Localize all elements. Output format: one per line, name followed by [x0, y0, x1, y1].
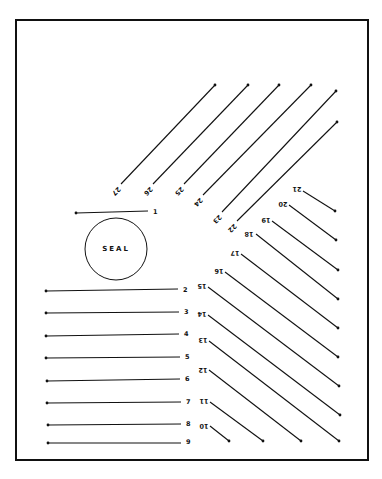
segment-line: [47, 402, 181, 403]
endpoint-dot: [45, 357, 48, 360]
endpoint-dot: [75, 212, 78, 215]
segment-line: [289, 205, 336, 240]
endpoint-dot: [45, 335, 48, 338]
segment-22: 22: [226, 121, 338, 235]
segment-13: 13: [198, 336, 340, 442]
segment-line: [76, 211, 148, 213]
segment-number-label: 9: [186, 438, 191, 446]
endpoint-dot: [334, 210, 337, 213]
endpoint-dot: [339, 414, 342, 417]
diagram-canvas: SEAL 12345678910111213141516171819202122…: [0, 0, 382, 479]
segment-number-label: 6: [185, 375, 190, 383]
segment-line: [209, 370, 301, 441]
segment-line: [48, 424, 181, 425]
segment-8: 8: [47, 420, 191, 428]
segment-5: 5: [45, 353, 190, 361]
segment-14: 14: [197, 310, 341, 416]
segment-21: 21: [292, 185, 336, 212]
segment-19: 19: [261, 216, 339, 271]
endpoint-dot: [247, 84, 250, 87]
segment-9: 9: [47, 438, 191, 446]
segment-number-label: 21: [292, 185, 302, 193]
segment-line: [47, 379, 180, 381]
segment-10: 10: [199, 422, 230, 442]
segment-18: 18: [244, 230, 339, 300]
endpoint-dot: [47, 424, 50, 427]
segment-line: [46, 357, 180, 358]
segment-27: 27: [110, 84, 216, 198]
segment-line: [210, 402, 263, 441]
segment-4: 4: [45, 330, 189, 338]
segment-15: 15: [197, 282, 340, 387]
segment-number-label: 20: [278, 200, 288, 208]
segment-number-label: 4: [184, 330, 189, 338]
segment-line: [46, 289, 178, 291]
segment-line: [272, 221, 338, 270]
endpoint-dot: [46, 402, 49, 405]
segment-number-label: 3: [184, 308, 189, 316]
segment-number-label: 15: [197, 282, 207, 290]
segment-number-label: 23: [211, 213, 223, 225]
segment-number-label: 5: [185, 353, 190, 361]
endpoint-dot: [337, 269, 340, 272]
segment-number-label: 17: [230, 249, 239, 257]
segment-2: 2: [45, 286, 188, 294]
endpoint-dot: [338, 385, 341, 388]
endpoint-dot: [45, 312, 48, 315]
segment-line: [256, 234, 338, 299]
endpoint-dot: [214, 84, 217, 87]
segment-line: [241, 254, 338, 328]
segment-line: [46, 312, 179, 313]
endpoint-dot: [310, 84, 313, 87]
segment-number-label: 12: [198, 366, 207, 374]
segment-23: 23: [211, 90, 337, 226]
segment-26: 26: [142, 84, 250, 198]
segment-3: 3: [45, 308, 189, 316]
endpoint-dot: [300, 440, 303, 443]
segment-line: [184, 85, 279, 184]
endpoint-dot: [46, 380, 49, 383]
segment-number-label: 14: [197, 310, 207, 318]
segment-number-label: 8: [186, 420, 191, 428]
segment-number-label: 16: [214, 267, 224, 275]
endpoint-dot: [338, 440, 341, 443]
segment-line: [303, 191, 335, 211]
segment-line: [46, 334, 179, 336]
segment-line: [209, 341, 339, 441]
endpoint-dot: [335, 239, 338, 242]
segment-number-label: 27: [110, 185, 122, 197]
segment-line: [208, 315, 340, 415]
endpoint-dot: [337, 327, 340, 330]
segment-6: 6: [46, 375, 190, 383]
segment-number-label: 7: [186, 398, 191, 406]
sheet-border: [16, 20, 368, 460]
endpoint-dot: [228, 440, 231, 443]
segment-7: 7: [46, 398, 191, 406]
segment-number-label: 2: [183, 286, 188, 294]
segment-number-label: 19: [261, 216, 271, 224]
endpoint-dot: [336, 121, 339, 124]
segment-number-label: 13: [198, 336, 207, 344]
segment-number-label: 25: [173, 185, 185, 197]
endpoint-dot: [335, 90, 338, 93]
segment-number-label: 1: [153, 208, 158, 216]
endpoint-dot: [262, 440, 265, 443]
segment-number-label: 11: [199, 397, 209, 405]
endpoint-dot: [337, 356, 340, 359]
segment-number-label: 24: [192, 196, 204, 208]
segment-line: [203, 85, 311, 195]
segment-number-label: 22: [226, 222, 238, 234]
segment-25: 25: [173, 84, 281, 198]
segment-line: [222, 91, 336, 212]
segment-11: 11: [199, 397, 264, 442]
endpoint-dot: [337, 298, 340, 301]
segment-number-label: 18: [244, 230, 254, 238]
endpoint-dot: [278, 84, 281, 87]
segment-number-label: 26: [142, 185, 154, 197]
endpoint-dot: [47, 442, 50, 445]
endpoint-dot: [45, 290, 48, 293]
segment-line: [208, 287, 339, 386]
segment-line: [210, 426, 229, 441]
segment-number-label: 10: [199, 422, 209, 430]
seal-label: SEAL: [102, 245, 130, 253]
